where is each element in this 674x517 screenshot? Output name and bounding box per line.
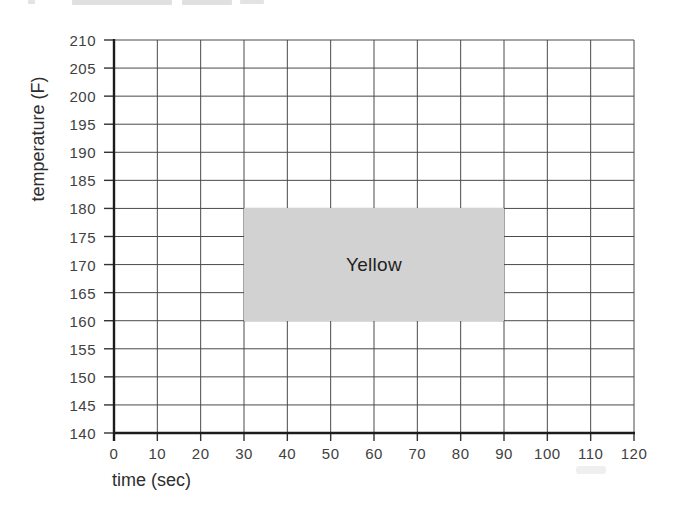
x-tick-label: 40 — [278, 446, 296, 461]
x-tick-label: 20 — [192, 446, 210, 461]
chart-figure: Yellow 140145150155160165170175180185190… — [0, 0, 674, 517]
y-tick-label: 165 — [48, 285, 96, 300]
region-label: Yellow — [346, 254, 402, 276]
y-tick-label: 170 — [48, 257, 96, 272]
y-tick-label: 140 — [48, 426, 96, 441]
x-tick-label: 70 — [408, 446, 426, 461]
y-tick-label: 205 — [48, 61, 96, 76]
y-tick-label: 155 — [48, 341, 96, 356]
x-tick-label: 10 — [148, 446, 166, 461]
x-tick-label: 50 — [322, 446, 340, 461]
y-tick-label: 190 — [48, 145, 96, 160]
y-axis-title: temperature (F) — [29, 76, 47, 201]
y-tick-label: 180 — [48, 201, 96, 216]
x-tick-label: 30 — [235, 446, 253, 461]
y-tick-label: 145 — [48, 397, 96, 412]
y-tick-label: 160 — [48, 313, 96, 328]
x-tick-label: 120 — [621, 446, 648, 461]
highlight-region-yellow: Yellow — [244, 208, 504, 320]
x-tick-label: 110 — [578, 446, 603, 461]
y-tick-label: 200 — [48, 89, 96, 104]
y-tick-label: 150 — [48, 369, 96, 384]
x-tick-label: 60 — [365, 446, 383, 461]
x-tick-label: 0 — [110, 446, 119, 461]
x-tick-label: 80 — [452, 446, 470, 461]
y-tick-label: 185 — [48, 173, 96, 188]
x-tick-label: 90 — [495, 446, 513, 461]
x-tick-label: 100 — [534, 446, 561, 461]
y-tick-label: 175 — [48, 229, 96, 244]
x-axis-title: time (sec) — [112, 471, 191, 489]
y-tick-label: 195 — [48, 117, 96, 132]
y-tick-label: 210 — [48, 33, 96, 48]
